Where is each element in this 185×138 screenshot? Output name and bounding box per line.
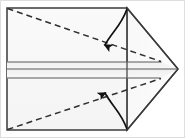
figure-canvas bbox=[0, 0, 185, 138]
paper-folding-figure: A rectangular sheet of paper with a tria… bbox=[0, 0, 185, 138]
center-band-upper bbox=[7, 62, 178, 69]
center-band-lower bbox=[7, 69, 178, 78]
